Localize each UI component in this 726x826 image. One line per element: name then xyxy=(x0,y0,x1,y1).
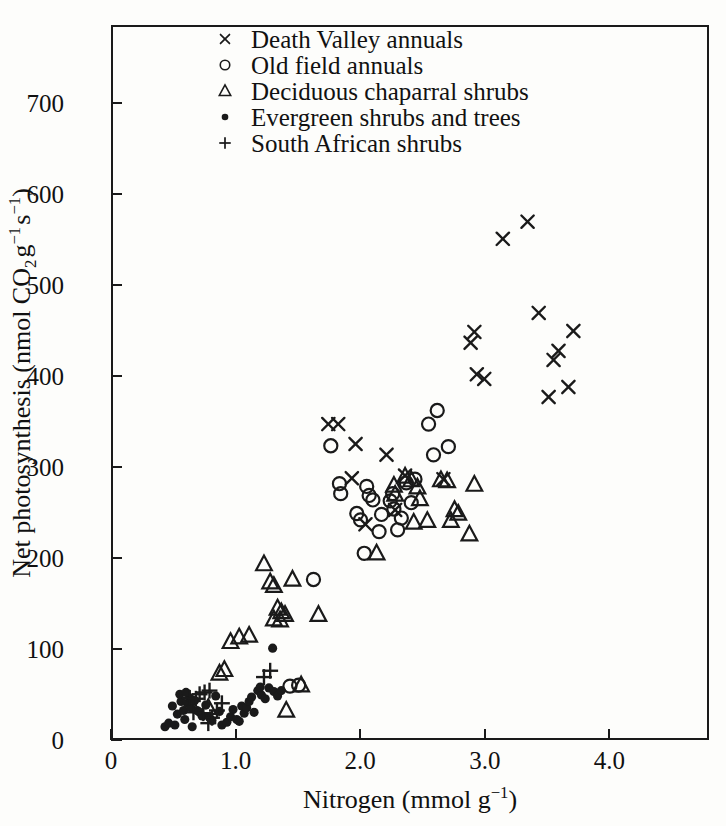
dot-marker xyxy=(277,686,286,695)
cross-marker xyxy=(497,233,509,245)
circle-marker xyxy=(431,404,444,417)
dot-marker xyxy=(222,114,229,121)
x-axis-tick-label: 0 xyxy=(105,748,118,773)
y-axis-tick xyxy=(111,739,122,741)
y-axis-tick-label: 500 xyxy=(0,273,64,298)
circle-marker xyxy=(427,448,440,461)
legend: Death Valley annualsOld field annualsDec… xyxy=(212,26,612,156)
circle-marker xyxy=(220,60,230,70)
x-axis-tick xyxy=(359,729,361,740)
series-old-field-annuals xyxy=(283,404,455,693)
y-axis-tick-label: 600 xyxy=(0,182,64,207)
plus-marker xyxy=(212,130,238,156)
cross-marker xyxy=(380,449,392,461)
triangle-marker xyxy=(419,512,435,527)
triangle-marker xyxy=(241,627,257,642)
legend-item-3[interactable]: Evergreen shrubs and trees xyxy=(212,104,612,130)
cross-marker xyxy=(562,381,574,393)
legend-item-0[interactable]: Death Valley annuals xyxy=(212,26,612,52)
triangle-marker xyxy=(311,606,327,621)
cross-marker xyxy=(349,438,361,450)
dot-marker xyxy=(212,104,238,130)
dot-marker xyxy=(170,720,179,729)
cross-marker xyxy=(542,391,554,403)
triangle-marker xyxy=(278,702,294,717)
y-axis-tick xyxy=(111,284,122,286)
x-axis-tick xyxy=(608,729,610,740)
series-deciduous-chaparral-shrubs xyxy=(200,468,482,717)
y-axis-tick-label: 700 xyxy=(0,91,64,116)
y-axis-tick xyxy=(111,102,122,104)
x-axis-tick-label: 4.0 xyxy=(594,748,625,773)
y-axis-tick xyxy=(111,375,122,377)
x-axis-tick-label: 3.0 xyxy=(469,748,500,773)
circle-marker xyxy=(442,440,455,453)
plus-marker xyxy=(219,137,231,149)
cross-marker xyxy=(468,326,480,338)
legend-item-label: Deciduous chaparral shrubs xyxy=(251,79,529,104)
triangle-marker xyxy=(219,85,230,96)
circle-marker xyxy=(395,511,408,524)
legend-item-4[interactable]: South African shrubs xyxy=(212,130,612,156)
y-axis-tick-label: 200 xyxy=(0,546,64,571)
triangle-marker xyxy=(285,571,301,586)
cross-marker xyxy=(346,472,358,484)
legend-item-label: Death Valley annuals xyxy=(251,27,463,52)
legend-item-label: South African shrubs xyxy=(251,131,462,156)
dot-marker xyxy=(235,717,244,726)
circle-marker xyxy=(360,480,373,493)
legend-item-1[interactable]: Old field annuals xyxy=(212,52,612,78)
dot-marker xyxy=(228,705,237,714)
circle-marker xyxy=(375,508,388,521)
series-evergreen-shrubs-and-trees xyxy=(160,644,285,732)
y-axis-tick xyxy=(111,557,122,559)
x-axis-tick xyxy=(235,729,237,740)
y-axis-tick xyxy=(111,648,122,650)
dot-marker xyxy=(250,708,259,717)
triangle-marker xyxy=(266,577,282,592)
cross-marker xyxy=(332,418,344,430)
circle-marker xyxy=(212,52,238,78)
circle-marker xyxy=(422,418,435,431)
cross-marker xyxy=(567,325,579,337)
legend-item-label: Evergreen shrubs and trees xyxy=(251,105,521,130)
cross-marker xyxy=(212,26,238,52)
y-axis-tick xyxy=(111,193,122,195)
legend-item-2[interactable]: Deciduous chaparral shrubs xyxy=(212,78,612,104)
legend-item-label: Old field annuals xyxy=(251,53,423,78)
cross-marker xyxy=(221,35,230,44)
x-axis-label: Nitrogen (mmol g−1) xyxy=(111,783,709,815)
triangle-marker xyxy=(462,526,478,541)
dot-marker xyxy=(168,701,177,710)
circle-marker xyxy=(324,439,337,452)
circle-marker xyxy=(307,573,320,586)
y-axis-tick-label: 0 xyxy=(0,728,64,753)
y-axis-tick xyxy=(111,466,122,468)
y-axis-tick-label: 300 xyxy=(0,455,64,480)
dot-marker xyxy=(261,694,270,703)
x-axis-tick-label: 1.0 xyxy=(220,748,251,773)
dot-marker xyxy=(188,722,197,731)
y-axis-tick-label: 400 xyxy=(0,364,64,389)
figure-container: Net photosynthesis (nmol CO2 g−1 s−1) Ni… xyxy=(0,0,726,826)
triangle-marker xyxy=(212,78,238,104)
x-axis-tick-label: 2.0 xyxy=(345,748,376,773)
cross-marker xyxy=(521,216,533,228)
cross-marker xyxy=(533,307,545,319)
dot-marker xyxy=(180,715,189,724)
y-axis-tick-label: 100 xyxy=(0,637,64,662)
triangle-marker xyxy=(450,505,466,520)
x-axis-tick xyxy=(484,729,486,740)
cross-marker xyxy=(464,337,476,349)
triangle-marker xyxy=(466,476,482,491)
dot-marker xyxy=(268,644,277,653)
triangle-marker xyxy=(256,556,272,571)
circle-marker xyxy=(373,525,386,538)
